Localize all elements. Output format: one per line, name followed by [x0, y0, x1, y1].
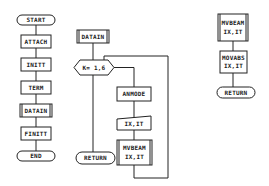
- end-terminator: END: [17, 151, 55, 161]
- datain-subroutine-call: DATAIN: [20, 104, 52, 117]
- movabs-line1: MOVABS: [222, 54, 245, 61]
- mvbeam-call-line1: MVBEAM: [123, 144, 146, 151]
- loop-label: K= 1,6: [83, 64, 106, 71]
- datain-flow: DATAIN K= 1,6 ANMODE IX,IT MVBEAM IX,IT …: [74, 30, 168, 178]
- mvbeam-subroutine-call: MVBEAM IX,IT: [117, 140, 152, 165]
- mvbeam-title-line1: MVBEAM: [222, 19, 245, 26]
- term-process: TERM: [21, 81, 51, 94]
- datain-title: DATAIN: [77, 30, 109, 43]
- mvbeam-flow: MVBEAM IX,IT MOVABS IX,IT RETURN: [217, 14, 255, 98]
- start-terminator: START: [17, 15, 55, 25]
- loop-hexagon: K= 1,6: [74, 60, 114, 75]
- mvbeam-return-terminator: RETURN: [217, 87, 255, 98]
- flowchart-canvas: START ATTACH INITT TERM DATAIN FINITT EN…: [0, 0, 269, 186]
- mvbeam-return-label: RETURN: [225, 89, 248, 96]
- mvbeam-title: MVBEAM IX,IT: [218, 14, 248, 41]
- datain-title-label: DATAIN: [82, 33, 105, 40]
- mvbeam-call-line2: IX,IT: [125, 153, 144, 160]
- movabs-process: MOVABS IX,IT: [220, 51, 247, 73]
- finitt-process: FINITT: [21, 127, 51, 140]
- start-label: START: [26, 16, 45, 23]
- ix-it-input: IX,IT: [117, 116, 151, 130]
- mvbeam-title-line2: IX,IT: [223, 28, 242, 35]
- movabs-line2: IX,IT: [224, 62, 243, 69]
- initt-process: INITT: [21, 58, 51, 71]
- end-label: END: [30, 152, 42, 159]
- anmode-process: ANMODE: [117, 87, 151, 101]
- anmode-label: ANMODE: [123, 90, 146, 97]
- datain-return-label: RETURN: [84, 154, 107, 161]
- loop-body-connector: [114, 68, 134, 88]
- attach-process: ATTACH: [21, 35, 51, 48]
- main-flow: START ATTACH INITT TERM DATAIN FINITT EN…: [17, 15, 55, 161]
- datain-return-terminator: RETURN: [76, 152, 115, 164]
- attach-label: ATTACH: [25, 38, 48, 45]
- finitt-label: FINITT: [25, 130, 48, 137]
- term-label: TERM: [28, 84, 43, 91]
- initt-label: INITT: [26, 61, 45, 68]
- datain-call-label: DATAIN: [25, 107, 48, 114]
- ix-it-input-label: IX,IT: [124, 120, 143, 127]
